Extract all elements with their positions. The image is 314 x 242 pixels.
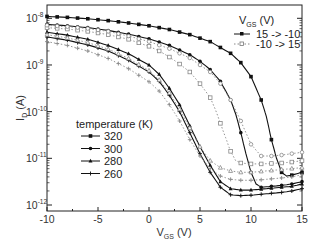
x-tick-label: 5: [197, 213, 203, 225]
y-tick-label: 10-8: [26, 11, 44, 24]
legend-vds: VGS (V) 15 -> -10 -10 -> 15: [234, 14, 300, 50]
x-tick-label: -5: [93, 213, 102, 225]
legend-temperature-entry-300: 300: [81, 143, 122, 155]
legend-temperature-entry-320: 320: [81, 130, 122, 142]
y-tick-label: 10-9: [26, 58, 44, 71]
transfer-curve-chart: -10-5051015 10-810-910-1010-1110-12 VGS …: [0, 0, 314, 242]
svg-text:260: 260: [104, 168, 122, 180]
x-axis: -10-5051015: [39, 207, 308, 225]
x-tick-label: 0: [146, 213, 152, 225]
svg-text:320: 320: [104, 130, 122, 142]
svg-text:300: 300: [104, 143, 122, 155]
x-tick-label: 10: [245, 213, 257, 225]
legend-temperature-title: temperature (K): [76, 118, 153, 130]
svg-text:280: 280: [104, 155, 122, 167]
y-tick-label: 10-12: [26, 198, 47, 211]
y-axis-label: ID (A): [14, 95, 28, 121]
y-tick-label: 10-10: [26, 105, 47, 118]
legend-temperature: temperature (K) 320300280260: [76, 118, 153, 180]
legend-vds-title: VGS (V): [239, 14, 274, 28]
legend-temperature-entry-280: 280: [81, 155, 122, 167]
x-axis-label: VGS (V): [156, 226, 191, 240]
legend-vds-entry-1: -10 -> 15: [256, 38, 300, 50]
y-tick-label: 10-11: [26, 151, 47, 164]
legend-temperature-entry-260: 260: [81, 168, 122, 180]
x-tick-label: -10: [39, 213, 54, 225]
x-tick-label: 15: [296, 213, 308, 225]
